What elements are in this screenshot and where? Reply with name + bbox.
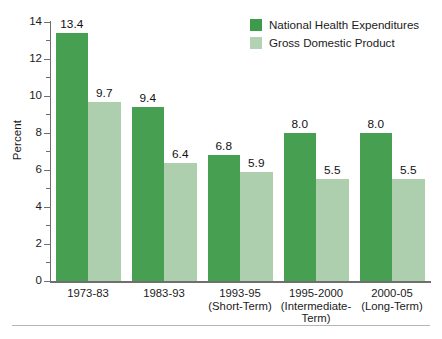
bar (164, 163, 197, 281)
y-tick-label: 10 (14, 90, 42, 102)
x-axis-line (50, 281, 431, 283)
y-tick-label: 4 (14, 201, 42, 213)
y-tick-label: 6 (14, 164, 42, 176)
y-tick-label-wrap: 14 (8, 16, 42, 28)
y-tick-label-wrap: 4 (8, 201, 42, 213)
legend-swatch-icon-series-0 (250, 19, 262, 31)
bar (56, 33, 89, 281)
legend-swatch-icon-series-1 (250, 37, 262, 49)
bar (392, 179, 425, 281)
legend-label-series-0: National Health Expenditures (269, 19, 419, 31)
bar (240, 172, 273, 281)
bar-value-label: 5.5 (384, 164, 433, 176)
y-tick-label-wrap: 10 (8, 90, 42, 102)
legend: National Health Expenditures Gross Domes… (250, 17, 419, 53)
bar (208, 155, 241, 281)
bar (284, 133, 317, 281)
y-tick-label: 2 (14, 238, 42, 250)
bar-value-label: 6.8 (200, 140, 249, 152)
bar-value-label: 5.9 (232, 157, 281, 169)
legend-item-gross-domestic-product[interactable]: Gross Domestic Product (250, 35, 419, 51)
bar-value-label: 5.5 (308, 164, 357, 176)
bar-value-label: 9.4 (124, 92, 173, 104)
bar-value-label: 6.4 (156, 148, 205, 160)
y-axis-title: Percent (11, 110, 23, 170)
y-tick-label: 0 (14, 275, 42, 287)
bar (316, 179, 349, 281)
legend-item-national-health-expenditures[interactable]: National Health Expenditures (250, 17, 419, 33)
bar (88, 102, 121, 281)
bar-chart-figure: Percent 02468101214 13.49.79.46.46.85.98… (0, 0, 442, 339)
bar (360, 133, 393, 281)
legend-label-series-1: Gross Domestic Product (269, 37, 395, 49)
footer-divider (12, 325, 430, 326)
bar-value-label: 8.0 (352, 118, 401, 130)
y-tick-label-wrap: 6 (8, 164, 42, 176)
y-tick-label-wrap: 2 (8, 238, 42, 250)
x-axis-category-label: 2000-05 (Long-Term) (346, 287, 438, 312)
y-tick-label: 8 (14, 127, 42, 139)
y-tick-label-wrap: 0 (8, 275, 42, 287)
bar-value-label: 9.7 (80, 87, 129, 99)
y-tick-label-wrap: 8 (8, 127, 42, 139)
y-tick-label: 12 (14, 53, 42, 65)
bar-value-label: 8.0 (276, 118, 325, 130)
y-tick-label-wrap: 12 (8, 53, 42, 65)
bar (132, 107, 165, 281)
bar-value-label: 13.4 (48, 18, 97, 30)
y-tick-label: 14 (14, 16, 42, 28)
